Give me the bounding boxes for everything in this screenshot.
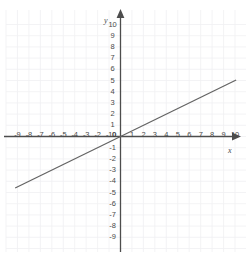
y-tick-label: -7 (107, 210, 119, 219)
y-tick-label: 1 (107, 120, 119, 129)
y-tick-label: 10 (107, 20, 119, 29)
x-tick-label: -3 (80, 130, 92, 139)
origin-label: 0 (112, 130, 116, 139)
y-axis-arrow-icon (117, 9, 125, 18)
y-tick-label: -5 (107, 188, 119, 197)
y-tick-label: 3 (107, 98, 119, 107)
y-tick-label: -9 (107, 232, 119, 241)
x-tick-label: -8 (23, 130, 35, 139)
x-tick-label: 10 (229, 130, 241, 139)
x-tick-label: 3 (149, 130, 161, 139)
x-tick-label: 1 (126, 130, 138, 139)
y-tick-label: 4 (107, 87, 119, 96)
coordinate-graph: -9-8-7-6-5-4-3-2-11234567891010987654321… (0, 0, 252, 259)
y-tick-label: -4 (107, 176, 119, 185)
y-tick-label: -8 (107, 221, 119, 230)
x-tick-label: -7 (34, 130, 46, 139)
x-tick-label: -5 (57, 130, 69, 139)
x-tick-label: 2 (137, 130, 149, 139)
y-tick-label: 9 (107, 31, 119, 40)
x-tick-label: -4 (69, 130, 81, 139)
y-tick-label: 5 (107, 76, 119, 85)
x-tick-label: 9 (218, 130, 230, 139)
y-tick-label: 6 (107, 64, 119, 73)
y-tick-label: 2 (107, 109, 119, 118)
x-tick-label: 5 (172, 130, 184, 139)
y-tick-label: -6 (107, 199, 119, 208)
y-tick-label: -3 (107, 165, 119, 174)
y-tick-label: -2 (107, 154, 119, 163)
x-tick-label: 7 (195, 130, 207, 139)
y-axis-label: y (104, 16, 108, 25)
y-tick-label: -1 (107, 143, 119, 152)
x-tick-label: -9 (11, 130, 23, 139)
x-tick-label: 8 (206, 130, 218, 139)
y-tick-label: 8 (107, 42, 119, 51)
x-tick-label: -6 (46, 130, 58, 139)
x-tick-label: 6 (183, 130, 195, 139)
x-axis-label: x (228, 146, 232, 155)
x-tick-label: -2 (92, 130, 104, 139)
y-tick-label: 7 (107, 53, 119, 62)
x-tick-label: 4 (160, 130, 172, 139)
